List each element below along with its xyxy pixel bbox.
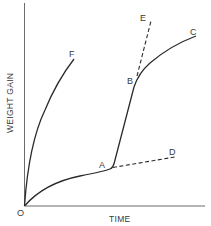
x-axis-title: TIME (109, 214, 131, 224)
weight-gain-chart: O A B C D E F TIME WEIGHT GAIN (0, 0, 211, 226)
label-origin: O (17, 208, 24, 218)
curve-f (25, 59, 75, 206)
y-axis-title: WEIGHT GAIN (5, 73, 15, 133)
dashed-line-e (137, 21, 151, 76)
label-f: F (69, 49, 75, 59)
chart-svg: O A B C D E F TIME WEIGHT GAIN (0, 0, 211, 226)
label-c: C (190, 27, 197, 37)
label-a: A (99, 160, 105, 170)
curve-oabc (25, 36, 197, 206)
label-d: D (169, 147, 176, 157)
label-e: E (140, 13, 146, 23)
dashed-line-d (113, 157, 175, 168)
label-b: B (127, 76, 133, 86)
